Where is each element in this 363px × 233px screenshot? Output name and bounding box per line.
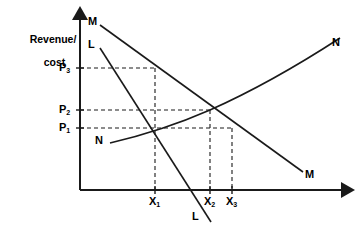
y-tick-label-p1: P1 [59,121,70,133]
x-tick-label-x2: X2 [204,195,215,207]
curve-label-n-start: N [95,134,103,146]
curve-label-l-top: L [88,38,95,50]
x-tick-label-x1-sub: 1 [156,201,160,208]
y-axis-title: Revenue/ cost [18,22,82,81]
x-tick-label-x3-sub: 3 [233,201,237,208]
y-tick-label-p2: P2 [59,103,70,115]
x-tick-label-x2-sub: 2 [211,201,215,208]
x-tick-label-x1: X1 [149,195,160,207]
dashed-guides-group [80,68,233,190]
x-tick-label-x3: X3 [226,195,237,207]
y-tick-label-p2-sub: 2 [66,109,70,116]
curve-label-n-end: N [332,36,340,48]
axis-group [80,16,345,190]
y-tick-label-p3: P3 [59,61,70,73]
y-axis-title-line1: Revenue/ [30,33,77,45]
curve-n [110,38,340,143]
diagram-canvas: Revenue/ cost P3 P2 P1 X1 X2 X3 M L N N … [0,0,363,233]
y-tick-label-p3-sub: 3 [66,67,70,74]
curve-label-m-top: M [88,15,97,27]
curve-label-l-end: L [192,210,199,222]
curve-label-m-end: M [305,168,314,180]
curve-m [100,25,303,172]
y-tick-label-p1-sub: 1 [66,127,70,134]
